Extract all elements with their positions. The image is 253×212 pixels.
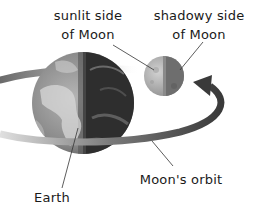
orbit-arrow-head-icon — [193, 75, 212, 96]
moons-orbit-label: Moon's orbit — [134, 172, 228, 188]
sunlit-side-label: sunlit side of Moon — [50, 8, 126, 43]
moon — [144, 54, 187, 98]
sunlit-label-line1: sunlit side — [50, 8, 126, 24]
sunlit-label-line2: of Moon — [50, 27, 126, 43]
shadowy-label-line1: shadowy side — [148, 8, 250, 24]
shadowy-label-line2: of Moon — [148, 27, 250, 43]
shadowy-leader-line — [180, 42, 203, 70]
orbit-leader-line — [152, 141, 173, 166]
shadowy-side-label: shadowy side of Moon — [148, 8, 250, 43]
earth-label: Earth — [30, 190, 74, 206]
